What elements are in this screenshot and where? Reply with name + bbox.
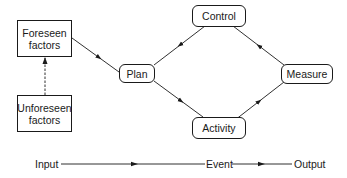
node-activity: Activity — [192, 117, 246, 139]
node-plan: Plan — [119, 64, 155, 83]
edge-activity-to-measure — [235, 82, 284, 120]
edge-foreseen-to-plan — [72, 38, 119, 72]
timeline-output: Output — [294, 158, 326, 170]
control-label: Control — [202, 10, 236, 22]
unforeseen-line2: factors — [17, 114, 71, 126]
node-foreseen-factors: Foreseen factors — [17, 20, 72, 57]
foreseen-line2: factors — [22, 39, 66, 51]
node-measure: Measure — [281, 64, 333, 84]
node-control: Control — [192, 5, 246, 27]
unforeseen-line1: Unforeseen — [17, 102, 71, 114]
plan-label: Plan — [126, 68, 147, 80]
edge-measure-to-control — [233, 26, 284, 65]
edge-plan-to-activity — [154, 81, 203, 117]
measure-label: Measure — [287, 68, 328, 80]
node-unforeseen-factors: Unforeseen factors — [17, 95, 72, 132]
timeline-arrows — [61, 162, 292, 166]
timeline-event: Event — [206, 158, 233, 170]
timeline-input: Input — [35, 158, 58, 170]
activity-label: Activity — [202, 122, 235, 134]
edge-unforeseen-to-foreseen — [43, 57, 48, 95]
foreseen-line1: Foreseen — [22, 27, 66, 39]
edge-control-to-plan — [154, 26, 205, 65]
